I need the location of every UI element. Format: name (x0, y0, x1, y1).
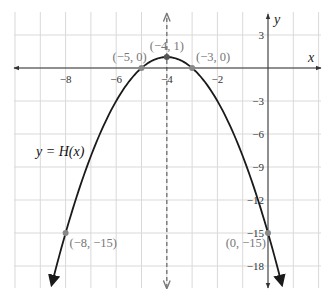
function-label: y = H(x) (34, 144, 85, 160)
y-tick-label: 3 (259, 29, 265, 41)
point-marker (139, 65, 145, 71)
point-marker (189, 65, 195, 71)
y-tick-label: −6 (252, 128, 264, 140)
y-tick-label: −3 (252, 95, 264, 107)
point-marker (63, 230, 69, 236)
point-marker (164, 54, 170, 60)
x-tick-label: −8 (60, 73, 72, 85)
y-axis-label: y (272, 12, 281, 27)
x-axis-label: x (307, 50, 315, 65)
y-tick-label: −9 (252, 161, 264, 173)
y-tick-label: −12 (247, 194, 264, 206)
point-label: (−5, 0) (113, 50, 147, 64)
point-label: (−4, 1) (150, 39, 184, 53)
point-label: (0, −15) (226, 236, 266, 250)
y-tick-label: −18 (247, 260, 265, 272)
point-label: (−3, 0) (196, 50, 230, 64)
x-tick-label: −4 (161, 73, 173, 85)
point-label: (−8, −15) (70, 236, 117, 250)
parabola-graph: x y −8−6−4−23−3−6−9−12−15−18 (−5, 0)(−4,… (0, 0, 331, 301)
x-tick-label: −2 (212, 73, 224, 85)
x-tick-label: −6 (110, 73, 122, 85)
